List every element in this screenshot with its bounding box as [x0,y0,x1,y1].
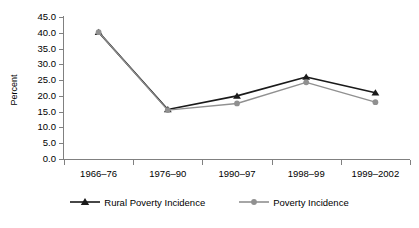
x-tick-mark [410,160,411,165]
data-point-marker [234,101,240,107]
x-tick-label: 1976–90 [149,169,186,179]
legend-item-poverty-incidence: Poverty Incidence [239,196,349,208]
line-chart: Percent 45.040.035.030.025.020.015.010.0… [0,0,419,228]
legend-label-rural-poverty-incidence: Rural Poverty Incidence [104,197,205,208]
x-tick-label: 1990–97 [219,169,256,179]
legend-item-rural-poverty-incidence: Rural Poverty Incidence [70,196,205,208]
data-point-marker [302,74,310,80]
plot-area [64,17,410,159]
legend-marker-circle-icon [239,196,269,208]
x-tick-mark [202,160,203,165]
x-tick-label: 1998–99 [288,169,325,179]
data-point-marker [165,107,171,113]
x-tick-mark [64,160,65,165]
series-layer [64,17,410,159]
data-point-marker [373,99,379,105]
x-tick-mark [272,160,273,165]
x-tick-mark [133,160,134,165]
chart-legend: Rural Poverty Incidence Poverty Incidenc… [0,196,419,208]
data-point-marker [96,29,102,35]
x-tick-label: 1999–2002 [352,169,400,179]
legend-label-poverty-incidence: Poverty Incidence [273,197,349,208]
x-tick-label: 1966–76 [80,169,117,179]
data-point-marker [303,79,309,85]
x-tick-mark [341,160,342,165]
legend-marker-triangle-icon [70,196,100,208]
